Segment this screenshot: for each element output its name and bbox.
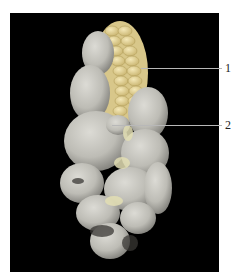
leader-line-1 [141, 68, 222, 69]
label-2: 2 [225, 119, 231, 131]
specimen-photo [10, 13, 219, 272]
leader-line-2 [112, 125, 222, 126]
label-1: 1 [225, 62, 231, 74]
corn-smut-specimen [10, 13, 219, 272]
